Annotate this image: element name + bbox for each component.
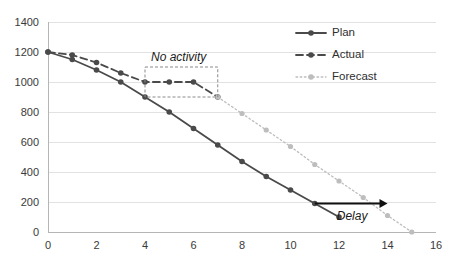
x-axis-tick-label: 8 [239,239,245,251]
no-activity-label: No activity [151,50,207,64]
x-axis-tick-label: 10 [284,239,296,251]
y-axis-tick-label: 600 [21,136,39,148]
data-point-forecast [336,178,341,183]
data-point-plan [215,142,221,148]
delay-label: Delay [337,209,369,223]
y-axis-tick-label: 400 [21,166,39,178]
gridlines [48,22,436,232]
data-point-plan [239,159,245,165]
data-point-actual [45,49,51,55]
data-point-actual [166,79,172,85]
x-axis-tick-label: 2 [93,239,99,251]
data-point-plan [94,67,100,73]
legend-label-plan[interactable]: Plan [332,26,355,38]
data-point-forecast [264,127,269,132]
y-axis-tick-label: 1000 [15,76,39,88]
x-axis-tick-label: 4 [142,239,148,251]
data-point-forecast [385,213,390,218]
y-axis-tick-label: 200 [21,196,39,208]
data-point-actual [69,52,75,58]
x-axis-tick-label: 16 [430,239,442,251]
burndown-chart: 0200400600800100012001400 0246810121416 … [0,0,452,269]
y-axis-tick-label: 1400 [15,16,39,28]
y-axis-tick-label: 800 [21,106,39,118]
data-point-actual [94,60,100,66]
x-axis-tick-labels: 0246810121416 [45,239,442,251]
x-axis-tick-label: 12 [333,239,345,251]
series-line-plan [48,52,339,217]
data-point-plan [118,79,124,85]
data-point-forecast [409,229,414,234]
legend-label-forecast[interactable]: Forecast [332,70,378,82]
chart-canvas: 0200400600800100012001400 0246810121416 … [0,0,452,269]
y-axis-tick-label: 0 [33,226,39,238]
legend-label-actual[interactable]: Actual [332,48,364,60]
chart-legend[interactable]: PlanActualForecast [296,26,378,82]
x-axis-tick-label: 14 [381,239,393,251]
legend-marker-actual [308,52,314,58]
data-point-plan [263,174,269,180]
data-point-forecast [288,144,293,149]
y-axis-tick-label: 1200 [15,46,39,58]
data-point-forecast [361,195,366,200]
data-point-forecast [312,162,317,167]
x-axis-tick-label: 6 [190,239,196,251]
data-point-plan [191,126,197,132]
legend-marker-plan [308,30,314,36]
data-point-actual [191,79,197,85]
data-point-plan [288,187,294,193]
data-point-plan [166,109,172,115]
delay-arrow-head [380,199,388,208]
data-point-actual [118,70,124,76]
x-axis-tick-label: 0 [45,239,51,251]
axes [48,22,436,232]
data-point-forecast [239,111,244,116]
y-axis-tick-labels: 0200400600800100012001400 [15,16,39,238]
legend-marker-forecast [308,74,314,80]
